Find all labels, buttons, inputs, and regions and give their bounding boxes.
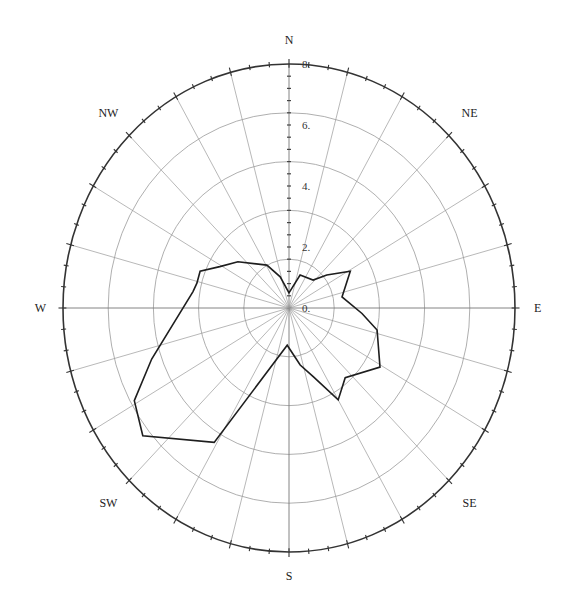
grid-spoke (231, 72, 289, 308)
grid-spoke (289, 308, 485, 430)
grid-spoke (289, 308, 449, 481)
grid-spoke (176, 97, 289, 308)
grid-spoke (129, 135, 289, 308)
grid-spoke (176, 308, 289, 519)
series-line (134, 262, 380, 443)
grid-spoke (231, 308, 289, 544)
grid-spoke (93, 186, 289, 308)
outer-tick (249, 65, 250, 70)
direction-label-se: SE (463, 496, 477, 510)
direction-label-nw: NW (98, 106, 119, 120)
grid-spoke (289, 308, 402, 519)
direction-label-n: N (285, 33, 294, 47)
radial-tick-label: 0. (302, 302, 311, 314)
radial-tick-label: 8. (302, 58, 311, 70)
wind-rose-chart: 0.2.4.6.8. NNEESESSWWNW (0, 0, 565, 607)
outer-tick (64, 265, 69, 266)
grid-spoke (289, 186, 485, 308)
direction-label-e: E (534, 301, 541, 315)
grid-spoke (129, 308, 289, 481)
data-series (134, 262, 380, 443)
direction-label-ne: NE (462, 106, 478, 120)
outer-tick (249, 546, 250, 551)
radial-tick-label: 2. (302, 241, 311, 253)
direction-label-s: S (286, 569, 293, 583)
outer-tick (509, 265, 514, 266)
outer-tick (64, 350, 69, 351)
outer-tick (509, 350, 514, 351)
direction-label-sw: SW (99, 496, 118, 510)
grid-spoke (289, 135, 449, 308)
grid-spoke (289, 308, 347, 544)
radial-tick-label: 4. (302, 180, 311, 192)
radial-tick-label: 6. (302, 119, 311, 131)
grid-spoke (93, 308, 289, 430)
outer-tick (328, 65, 329, 70)
grid-spoke (71, 308, 289, 371)
direction-label-w: W (35, 301, 47, 315)
grid-spoke (71, 245, 289, 308)
grid-spoke (289, 308, 507, 371)
outer-tick (328, 546, 329, 551)
